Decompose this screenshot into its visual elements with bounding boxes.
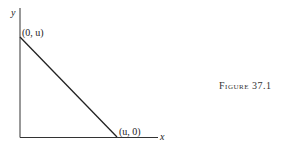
budget-line (20, 37, 117, 137)
point-label-y-intercept: (0, u) (22, 28, 44, 38)
y-axis-label: y (11, 8, 15, 18)
figure-caption: Figure 37.1 (219, 80, 271, 91)
x-axis-label: x (160, 132, 164, 142)
point-label-x-intercept: (u, 0) (119, 127, 141, 137)
diagram-canvas (0, 0, 297, 149)
